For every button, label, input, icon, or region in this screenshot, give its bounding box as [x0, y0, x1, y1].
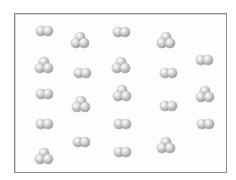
atom-sphere-icon — [80, 102, 90, 112]
triatomic-molecule — [72, 96, 90, 112]
triatomic-molecule — [113, 85, 131, 101]
atom-sphere-icon — [167, 68, 177, 78]
atom-sphere-icon — [203, 55, 213, 65]
diatomic-molecule — [114, 147, 131, 157]
triatomic-molecule — [71, 32, 89, 48]
atom-sphere-icon — [120, 63, 130, 73]
atom-sphere-icon — [121, 91, 131, 101]
atom-sphere-icon — [81, 68, 91, 78]
atom-sphere-icon — [43, 63, 53, 73]
diatomic-molecule — [160, 101, 177, 111]
atom-sphere-icon — [165, 143, 175, 153]
atom-sphere-icon — [79, 38, 89, 48]
triatomic-molecule — [112, 57, 130, 73]
diatomic-molecule — [36, 119, 53, 129]
atom-sphere-icon — [43, 154, 53, 164]
atom-sphere-icon — [204, 92, 214, 102]
diatomic-molecule — [196, 55, 213, 65]
atom-sphere-icon — [80, 137, 90, 147]
diatomic-molecule — [73, 137, 90, 147]
atom-sphere-icon — [43, 26, 53, 36]
diatomic-molecule — [36, 89, 53, 99]
atom-sphere-icon — [43, 89, 53, 99]
atom-sphere-icon — [165, 38, 175, 48]
atom-sphere-icon — [43, 119, 53, 129]
diatomic-molecule — [160, 68, 177, 78]
diatomic-molecule — [74, 68, 91, 78]
triatomic-molecule — [196, 86, 214, 102]
triatomic-molecule — [157, 137, 175, 153]
atom-sphere-icon — [121, 147, 131, 157]
diatomic-molecule — [36, 26, 53, 36]
triatomic-molecule — [35, 148, 53, 164]
triatomic-molecule — [157, 32, 175, 48]
atom-sphere-icon — [167, 101, 177, 111]
diatomic-molecule — [113, 27, 130, 37]
triatomic-molecule — [35, 57, 53, 73]
atom-sphere-icon — [204, 119, 214, 129]
diatomic-molecule — [114, 119, 131, 129]
atom-sphere-icon — [120, 27, 130, 37]
atom-sphere-icon — [121, 119, 131, 129]
diatomic-molecule — [197, 119, 214, 129]
